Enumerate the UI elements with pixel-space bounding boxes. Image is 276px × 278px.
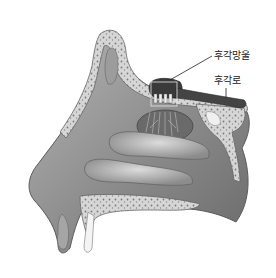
nasal-anatomy-illustration: [0, 0, 276, 278]
label-olfactory-tract: 후각로: [214, 76, 241, 86]
frontal-sinus: [105, 48, 118, 84]
leader-line-bulb: [170, 56, 212, 80]
hard-palate: [80, 194, 200, 238]
label-olfactory-bulb: 후각망울: [214, 51, 250, 61]
